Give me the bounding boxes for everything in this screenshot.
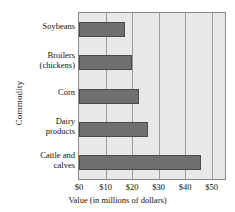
bar-soybeans	[79, 22, 125, 37]
category-label-corn: Corn	[21, 88, 75, 98]
bar-dairy-products	[79, 122, 148, 137]
category-label-line2: (chickens)	[21, 61, 75, 71]
category-label-line1: Corn	[58, 87, 75, 97]
bar-corn	[79, 89, 139, 104]
category-axis-labels: Soybeans Broilers (chickens) Corn Dairy …	[22, 12, 77, 180]
category-label-line2: products	[21, 127, 75, 137]
gridline-50	[212, 13, 213, 179]
category-label-line1: Soybeans	[42, 21, 75, 31]
x-axis-tick-labels: $0$10$20$30$40$50	[78, 182, 226, 194]
x-axis-title: Value (in millions of dollars)	[0, 195, 235, 205]
x-axis-title-text: Value (in millions of dollars)	[68, 195, 166, 205]
category-label-line1: Cattle and	[40, 150, 75, 160]
category-label-line1: Dairy	[56, 116, 75, 126]
category-label-line1: Broilers	[48, 50, 75, 60]
bar-chart: Commodity Soybeans Broilers (chickens) C…	[0, 0, 235, 212]
x-tick-label-50: $50	[195, 182, 229, 192]
bar-cattle-and-calves	[79, 155, 201, 170]
category-label-broilers: Broilers (chickens)	[21, 51, 75, 70]
category-label-dairy-products: Dairy products	[21, 117, 75, 136]
category-label-cattle-and-calves: Cattle and calves	[21, 151, 75, 170]
category-label-line2: calves	[21, 161, 75, 171]
bar-broilers-chickens	[79, 55, 132, 70]
plot-area	[78, 12, 226, 180]
category-label-soybeans: Soybeans	[21, 22, 75, 32]
